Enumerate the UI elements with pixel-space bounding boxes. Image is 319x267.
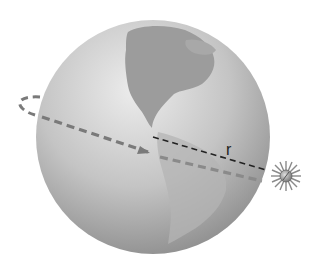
radius-label: r (226, 141, 232, 158)
diagram: r (0, 0, 319, 267)
satellite-icon (271, 161, 301, 191)
earth-orbit-figure: r (0, 0, 319, 267)
